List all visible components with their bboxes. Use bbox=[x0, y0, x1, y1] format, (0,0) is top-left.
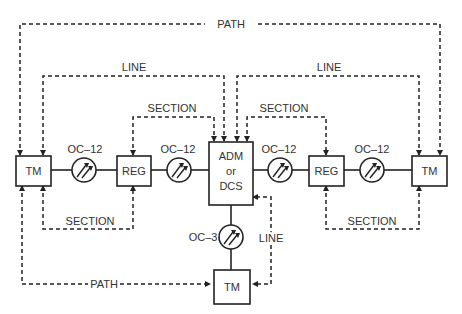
diagram-canvas: TM REG ADM or DCS REG TM TM OC–12 OC–12 … bbox=[0, 0, 462, 314]
optical-link-icon bbox=[268, 158, 292, 182]
optical-link-icon bbox=[360, 158, 384, 182]
tm-right-label: TM bbox=[422, 165, 438, 177]
sonet-network-diagram: TM REG ADM or DCS REG TM TM OC–12 OC–12 … bbox=[0, 0, 462, 314]
line-right-label: LINE bbox=[317, 61, 341, 73]
tm-bottom-label: TM bbox=[224, 281, 240, 293]
oc3-label: OC–3 bbox=[189, 231, 218, 243]
adm-label-1: ADM bbox=[219, 150, 243, 162]
tm-left-label: TM bbox=[26, 165, 42, 177]
optical-link-icon bbox=[219, 225, 243, 249]
optical-link-icon bbox=[72, 158, 96, 182]
section-bottom-right-label: SECTION bbox=[348, 215, 397, 227]
adm-label-3: DCS bbox=[219, 180, 242, 192]
oc12-label: OC–12 bbox=[355, 143, 390, 155]
oc12-label: OC–12 bbox=[262, 143, 297, 155]
optical-link-icon bbox=[167, 158, 191, 182]
section-top-left-label: SECTION bbox=[148, 102, 197, 114]
section-bottom-left-label: SECTION bbox=[66, 215, 115, 227]
reg-left-label: REG bbox=[122, 165, 146, 177]
section-top-right-label: SECTION bbox=[260, 102, 309, 114]
reg-right-label: REG bbox=[315, 165, 339, 177]
path-bottom-label: PATH bbox=[90, 278, 118, 290]
oc12-label: OC–12 bbox=[68, 143, 103, 155]
oc12-label: OC–12 bbox=[161, 143, 196, 155]
line-vertical-label: LINE bbox=[259, 232, 283, 244]
line-left-label: LINE bbox=[122, 61, 146, 73]
path-top-label: PATH bbox=[217, 18, 245, 30]
adm-label-2: or bbox=[226, 165, 236, 177]
